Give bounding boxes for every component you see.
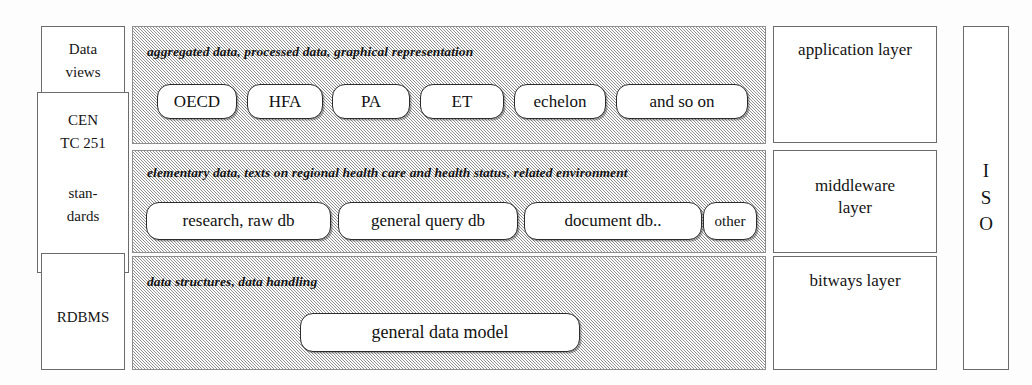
layer-box-middleware: middlewarelayer [773,150,937,253]
layer-middleware-line1: middleware [815,176,895,195]
item-pa[interactable]: PA [332,84,410,119]
iso-letter-o: O [979,213,993,234]
diagram-canvas: Dataviews CENTC 251stan-dards RDBMS aggr… [0,0,1032,385]
cen-line4: dards [67,208,100,224]
layer-bitways-label: bitways layer [774,257,936,292]
data-views-line1: Data [69,41,97,57]
data-views-label: Dataviews [42,27,124,85]
panel-middleware-caption: elementary data, texts on regional healt… [147,165,628,181]
iso-letter-s: S [981,187,992,208]
rdbms-label: RDBMS [42,254,124,327]
iso-letter-i: I [983,160,989,181]
item-echelon-label: echelon [534,92,587,112]
item-document-db-label: document db.. [565,211,662,231]
panel-application-caption: aggregated data, processed data, graphic… [147,44,473,60]
item-other-label: other [715,213,746,230]
left-box-cen-tc251-standards: CENTC 251stan-dards [37,92,129,273]
item-general-data-model[interactable]: general data model [300,313,580,352]
item-oecd-label: OECD [174,92,220,112]
item-and-so-on-label: and so on [649,92,714,112]
item-echelon[interactable]: echelon [514,84,606,119]
cen-line1: CEN [68,112,98,128]
cen-line2: TC 251 [60,135,105,151]
item-general-data-model-label: general data model [372,322,509,343]
data-views-line2: views [66,64,101,80]
panel-bitways-caption: data structures, data handling [147,274,317,290]
item-et-label: ET [452,92,473,112]
item-et[interactable]: ET [420,84,504,119]
item-research-raw-db[interactable]: research, raw db [146,202,331,240]
layer-middleware-line2: layer [838,198,872,217]
left-box-data-views: Dataviews [41,26,125,93]
layer-box-application: application layer [773,26,937,143]
layer-application-label: application layer [774,27,936,61]
cen-spacer [38,156,128,182]
item-research-raw-db-label: research, raw db [183,211,295,231]
item-general-query-db-label: general query db [371,211,485,231]
item-general-query-db[interactable]: general query db [338,202,518,240]
layer-middleware-label: middlewarelayer [774,151,936,219]
layer-box-bitways: bitways layer [773,256,937,370]
item-and-so-on[interactable]: and so on [616,84,748,119]
iso-letters: ISO [979,158,993,239]
item-pa-label: PA [361,92,381,112]
cen-label: CENTC 251stan-dards [38,93,128,228]
item-document-db[interactable]: document db.. [524,202,702,240]
item-hfa[interactable]: HFA [247,84,323,119]
standards-column-iso: ISO [963,26,1009,370]
cen-line3: stan- [68,185,97,201]
item-oecd[interactable]: OECD [157,84,237,119]
item-other[interactable]: other [703,202,757,240]
item-hfa-label: HFA [269,92,302,112]
left-box-rdbms: RDBMS [41,253,125,370]
